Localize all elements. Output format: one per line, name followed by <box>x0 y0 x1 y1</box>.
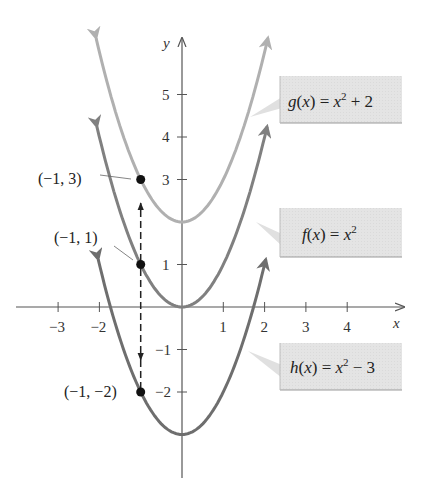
y-axis-label: y <box>161 35 170 51</box>
x-tick-label: 4 <box>343 319 351 335</box>
callout-g: g(x) = x2 + 2 <box>250 76 402 123</box>
point-neg1-neg2 <box>136 388 145 397</box>
x-tick-label: 3 <box>302 319 310 335</box>
point-neg1-3 <box>136 175 145 184</box>
leader-neg1-3 <box>100 175 131 179</box>
x-tick-label: 1 <box>219 319 227 335</box>
callout-h: h(x) = x2 − 3 <box>248 343 402 390</box>
point-label-neg1-3: (−1, 3) <box>38 170 82 188</box>
x-tick-label: −2 <box>90 319 106 335</box>
point-neg1-1 <box>136 260 145 269</box>
x-tick-label: 2 <box>261 319 269 335</box>
y-tick-label: −2 <box>155 384 171 400</box>
leader-neg1-1 <box>114 246 133 260</box>
point-label-neg1-1: (−1, 1) <box>54 229 98 247</box>
chart-canvas: x y −3−21234−2−11345 (−1, 3) (−1, 1) (−1… <box>0 0 422 503</box>
y-tick-label: 1 <box>162 257 170 273</box>
label-f: f(x) = x2 <box>302 223 357 244</box>
x-axis-label: x <box>392 315 400 331</box>
y-tick-label: 4 <box>162 129 170 145</box>
y-tick-label: −1 <box>155 342 171 358</box>
y-tick-label: 5 <box>162 87 170 103</box>
callout-f: f(x) = x2 <box>256 208 402 257</box>
x-tick-label: −3 <box>49 319 65 335</box>
y-tick-label: 3 <box>162 172 170 188</box>
point-label-neg1-neg2: (−1, −2) <box>64 383 117 401</box>
label-g: g(x) = x2 + 2 <box>288 90 373 111</box>
label-h: h(x) = x2 − 3 <box>290 356 375 377</box>
